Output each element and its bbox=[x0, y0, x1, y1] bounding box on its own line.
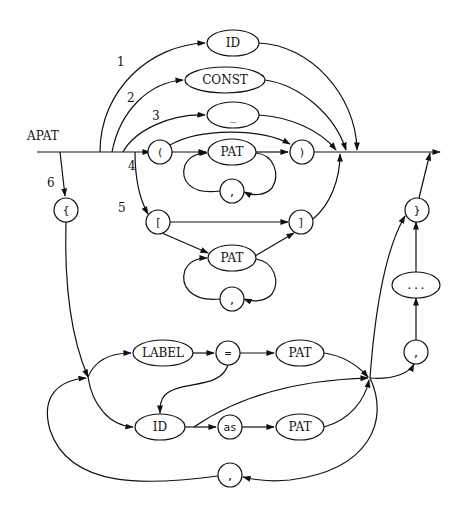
svg-text:as: as bbox=[223, 421, 236, 434]
node-pat-as: PAT bbox=[276, 414, 324, 440]
edge-from-const bbox=[265, 80, 346, 150]
svg-text:,: , bbox=[413, 347, 420, 360]
svg-text:=: = bbox=[225, 347, 232, 360]
node-label: LABEL bbox=[133, 340, 193, 366]
edge-comma-junction bbox=[47, 378, 218, 481]
node-id: ID bbox=[207, 30, 259, 56]
node-id-record: ID bbox=[135, 414, 185, 440]
svg-text:PAT: PAT bbox=[289, 346, 312, 360]
node-comma-bracket: , bbox=[220, 287, 244, 311]
svg-text:,: , bbox=[227, 470, 234, 483]
edge-junction-label bbox=[88, 353, 131, 377]
svg-text:PAT: PAT bbox=[221, 251, 244, 265]
node-comma-paren: , bbox=[220, 179, 244, 203]
svg-text:): ) bbox=[299, 146, 306, 159]
edge-pat-junction bbox=[324, 353, 368, 377]
svg-text:,: , bbox=[229, 294, 236, 307]
svg-text:ID: ID bbox=[226, 36, 240, 50]
node-lbrace: { bbox=[54, 198, 78, 222]
svg-text:PAT: PAT bbox=[289, 420, 312, 434]
svg-text:_: _ bbox=[230, 110, 237, 123]
syntax-diagram: APAT 1 2 3 4 5 6 ID bbox=[0, 0, 468, 509]
edge-lbrace-junction bbox=[66, 222, 88, 377]
branch-number-1: 1 bbox=[117, 55, 125, 69]
edge-from-id bbox=[259, 43, 357, 150]
node-comma-record-end: , bbox=[404, 340, 428, 364]
diagram-title: APAT bbox=[26, 129, 59, 143]
node-ellipsis: ... bbox=[392, 272, 440, 298]
svg-text:CONST: CONST bbox=[202, 73, 248, 87]
edge-to-lbracket bbox=[135, 152, 148, 214]
svg-text:}: } bbox=[414, 204, 421, 217]
edge-to-lbrace bbox=[60, 152, 65, 196]
node-equals: = bbox=[216, 341, 240, 365]
branch-number-5: 5 bbox=[118, 201, 126, 215]
node-pat-bracket: PAT bbox=[208, 245, 256, 271]
svg-text:[: [ bbox=[155, 216, 162, 229]
svg-text:LABEL: LABEL bbox=[142, 346, 184, 360]
node-lbracket: [ bbox=[146, 210, 170, 234]
edge-junction-comma-end bbox=[370, 364, 414, 378]
node-wildcard: _ bbox=[207, 102, 259, 128]
node-pat-paren: PAT bbox=[208, 139, 256, 165]
svg-text:ID: ID bbox=[153, 420, 167, 434]
edge-rbrace-main bbox=[419, 153, 430, 198]
node-lparen: ( bbox=[148, 140, 172, 164]
edge-to-const bbox=[112, 80, 183, 152]
branch-number-3: 3 bbox=[152, 109, 160, 123]
node-comma-record: , bbox=[218, 463, 242, 487]
svg-text:PAT: PAT bbox=[221, 145, 244, 159]
edge-equals-id bbox=[160, 365, 228, 413]
node-rbracket: ] bbox=[289, 210, 313, 234]
node-pat-label: PAT bbox=[276, 340, 324, 366]
node-as: as bbox=[218, 415, 242, 439]
branch-number-4: 4 bbox=[128, 159, 136, 173]
edge-rbracket-main bbox=[313, 154, 340, 219]
node-rparen: ) bbox=[290, 140, 314, 164]
edge-junction-id bbox=[88, 377, 133, 427]
edge-junction-rbrace bbox=[370, 216, 405, 378]
branch-number-2: 2 bbox=[127, 91, 135, 105]
edge-lbracket-pat bbox=[162, 233, 208, 253]
svg-text:,: , bbox=[229, 186, 236, 199]
node-const: CONST bbox=[185, 67, 265, 93]
branch-number-6: 6 bbox=[47, 176, 55, 190]
edge-pat-rbracket bbox=[255, 233, 294, 256]
edge-as-pat-junction bbox=[324, 380, 369, 427]
node-rbrace: } bbox=[405, 198, 429, 222]
svg-text:...: ... bbox=[406, 279, 426, 292]
svg-text:]: ] bbox=[298, 216, 305, 229]
svg-text:{: { bbox=[63, 204, 70, 217]
svg-text:(: ( bbox=[157, 146, 164, 159]
